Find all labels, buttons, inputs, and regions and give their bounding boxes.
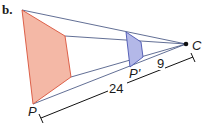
part-label: b.: [2, 3, 12, 16]
distance-full-label: 24: [108, 82, 124, 95]
center-point: [184, 42, 189, 47]
distance-image-label: 9: [156, 57, 165, 70]
image-label: P': [129, 67, 140, 80]
preimage-label: P: [28, 105, 37, 118]
preimage-quadrilateral: [22, 10, 71, 104]
center-label: C: [192, 39, 201, 52]
dilation-diagram: b. C P P' 9 24: [0, 0, 211, 132]
